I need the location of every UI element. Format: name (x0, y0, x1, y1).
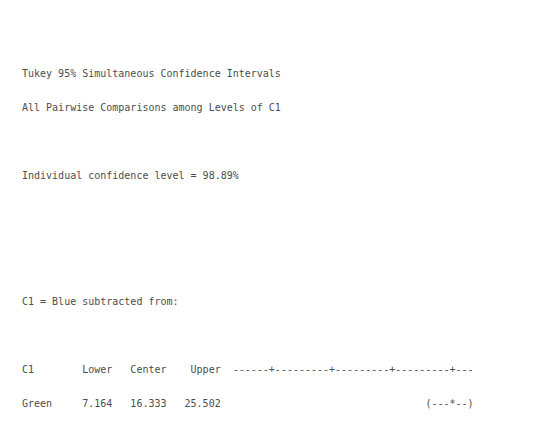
tukey-output-pane: Tukey 95% Simultaneous Confidence Interv… (0, 0, 558, 430)
data-cells-green: Green 7.164 16.333 25.502 (22, 398, 233, 409)
table-header-labels: C1 Lower Center Upper (22, 364, 233, 375)
spacer (22, 330, 558, 341)
table-header-row-blue: C1 Lower Center Upper ------+---------+-… (22, 364, 558, 375)
block-subtitle-blue: C1 = Blue subtracted from: (22, 296, 558, 307)
spacer (22, 239, 558, 250)
report-title-line-2: All Pairwise Comparisons among Levels of… (22, 102, 558, 113)
axis-rule-top-blue: ------+---------+---------+---------+--- (233, 364, 474, 375)
individual-confidence-level: Individual confidence level = 98.89% (22, 170, 558, 181)
spacer (22, 136, 558, 147)
spacer (22, 204, 558, 215)
interval-marker-green: (---*--) (233, 398, 474, 409)
table-row: Green 7.164 16.333 25.502 (---*--) (22, 398, 558, 409)
report-title-line-1: Tukey 95% Simultaneous Confidence Interv… (22, 68, 558, 79)
